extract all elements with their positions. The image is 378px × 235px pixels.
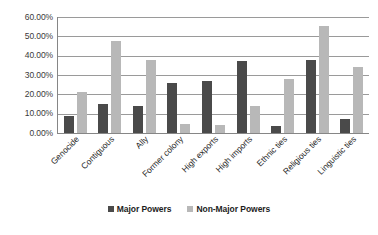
y-axis: 60.00%50.00%40.00%30.00%20.00%10.00%0.00… (0, 11, 53, 135)
bar (319, 26, 329, 133)
bar (167, 83, 177, 133)
bar (353, 67, 363, 133)
legend-swatch-icon (187, 206, 193, 212)
bar (215, 125, 225, 133)
bar (133, 106, 143, 133)
bar-chart: 60.00%50.00%40.00%30.00%20.00%10.00%0.00… (0, 0, 378, 235)
x-axis: GenocideContiguousAllyFormer colonyHigh … (57, 134, 368, 192)
legend-item[interactable]: Major Powers (108, 204, 172, 214)
bar-group (58, 17, 93, 133)
bars-layer (58, 17, 369, 133)
y-tick-label: 20.00% (0, 89, 53, 100)
y-tick-label: 0.00% (0, 128, 53, 139)
y-tick-label: 50.00% (0, 31, 53, 42)
bar (146, 60, 156, 133)
plot-area (57, 17, 369, 134)
bar-group (231, 17, 266, 133)
bar-group (196, 17, 231, 133)
legend-label: Non-Major Powers (196, 204, 270, 214)
legend-item[interactable]: Non-Major Powers (187, 204, 270, 214)
bar (306, 60, 316, 133)
bar-group (162, 17, 197, 133)
bar (250, 106, 260, 133)
bar (271, 126, 281, 133)
y-tick-label: 30.00% (0, 70, 53, 81)
bar (111, 41, 121, 133)
y-tick-label: 10.00% (0, 108, 53, 119)
chart-legend: Major PowersNon-Major Powers (0, 204, 378, 214)
bar (284, 79, 294, 133)
bar (77, 92, 87, 133)
bar-group (265, 17, 300, 133)
bar-group (300, 17, 335, 133)
bar (202, 81, 212, 133)
bar-group (127, 17, 162, 133)
bar (64, 116, 74, 133)
y-tick-label: 40.00% (0, 50, 53, 61)
bar (98, 104, 108, 133)
bar-group (335, 17, 370, 133)
bar (180, 124, 190, 133)
bar-group (93, 17, 128, 133)
bar (340, 119, 350, 133)
legend-label: Major Powers (117, 204, 172, 214)
legend-swatch-icon (108, 206, 114, 212)
y-tick-label: 60.00% (0, 12, 53, 23)
bar (237, 61, 247, 133)
